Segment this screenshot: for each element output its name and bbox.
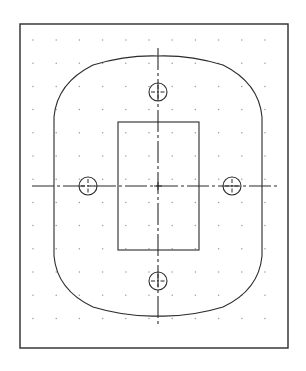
grid-dot <box>55 225 57 227</box>
grid-dot <box>102 225 104 227</box>
grid-dot <box>102 318 104 320</box>
grid-dot <box>102 39 104 41</box>
grid-dot <box>32 132 34 134</box>
grid-dot <box>148 39 150 41</box>
grid-dot <box>55 248 57 250</box>
grid-dot <box>241 109 243 111</box>
grid-dot <box>125 132 127 134</box>
grid-dot <box>195 132 197 134</box>
grid-dot <box>148 62 150 64</box>
grid-dot <box>79 132 81 134</box>
grid-dot <box>79 248 81 250</box>
grid-dot <box>171 318 173 320</box>
grid-dot <box>125 271 127 273</box>
grid-dot <box>125 248 127 250</box>
grid-dot <box>241 178 243 180</box>
grid-dot <box>241 132 243 134</box>
grid-dot <box>79 318 81 320</box>
grid-dot <box>32 248 34 250</box>
grid-dot <box>171 132 173 134</box>
grid-dot <box>148 271 150 273</box>
grid-dot <box>171 178 173 180</box>
grid-dot <box>195 86 197 88</box>
hole-west <box>79 177 97 195</box>
grid-dot <box>171 62 173 64</box>
grid-dot <box>218 178 220 180</box>
grid-dot <box>264 202 266 204</box>
grid-dot <box>195 39 197 41</box>
grid-dot <box>32 39 34 41</box>
grid-dot <box>102 178 104 180</box>
grid-dot <box>79 39 81 41</box>
grid-dot <box>264 109 266 111</box>
grid-dot <box>32 225 34 227</box>
cad-drawing-svg <box>0 0 306 371</box>
grid-dot <box>195 294 197 296</box>
grid-dot <box>195 271 197 273</box>
grid-dot <box>264 225 266 227</box>
grid-dot <box>79 155 81 157</box>
grid-dot <box>195 225 197 227</box>
grid-dot <box>171 248 173 250</box>
grid-dot <box>218 202 220 204</box>
grid-dot <box>264 271 266 273</box>
grid-dot <box>264 294 266 296</box>
grid-dot <box>125 225 127 227</box>
grid-dot <box>195 202 197 204</box>
grid-dot <box>218 109 220 111</box>
grid-dot <box>241 86 243 88</box>
grid-dot <box>264 62 266 64</box>
grid-dot <box>148 155 150 157</box>
grid-dot <box>171 271 173 273</box>
grid-dot <box>264 248 266 250</box>
drawing-canvas <box>0 0 306 371</box>
grid-dot <box>32 109 34 111</box>
grid-dot <box>55 39 57 41</box>
grid-dot <box>148 202 150 204</box>
grid-dot <box>79 294 81 296</box>
grid-dot <box>171 155 173 157</box>
grid-dot <box>171 294 173 296</box>
grid-dot <box>125 39 127 41</box>
grid-dot <box>264 39 266 41</box>
grid-dot <box>171 225 173 227</box>
grid-dot <box>218 318 220 320</box>
grid-dot <box>148 86 150 88</box>
grid-dot <box>218 294 220 296</box>
grid-dot <box>241 318 243 320</box>
grid-dot <box>32 318 34 320</box>
grid-dot <box>32 271 34 273</box>
grid-dot <box>195 318 197 320</box>
grid-dot <box>195 178 197 180</box>
grid-dot <box>125 178 127 180</box>
grid-dot <box>171 86 173 88</box>
grid-dot <box>148 225 150 227</box>
grid-dot <box>195 62 197 64</box>
grid-dot <box>125 86 127 88</box>
grid-dot <box>55 132 57 134</box>
grid-dot <box>241 202 243 204</box>
grid-dot <box>241 248 243 250</box>
grid-dot <box>148 248 150 250</box>
grid-dot <box>102 86 104 88</box>
grid-dot <box>195 155 197 157</box>
grid-dot <box>32 155 34 157</box>
grid-dot <box>148 318 150 320</box>
grid-dot <box>241 155 243 157</box>
grid-dot <box>171 202 173 204</box>
grid-dot <box>148 178 150 180</box>
grid-dot <box>79 62 81 64</box>
grid-dot <box>218 225 220 227</box>
grid-dot <box>32 202 34 204</box>
grid-dot <box>218 39 220 41</box>
grid-dot <box>125 318 127 320</box>
grid-dot <box>218 271 220 273</box>
grid-dot <box>195 248 197 250</box>
grid-dot <box>148 109 150 111</box>
grid-dot <box>55 202 57 204</box>
grid-dot <box>218 132 220 134</box>
grid-dot <box>32 62 34 64</box>
grid-dot <box>55 155 57 157</box>
grid-dot <box>102 294 104 296</box>
grid-dot <box>102 155 104 157</box>
